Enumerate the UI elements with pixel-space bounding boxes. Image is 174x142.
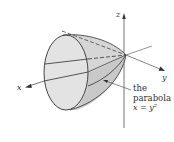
y-axis-label: y	[162, 74, 167, 82]
annotation-line-2: parabola	[133, 94, 171, 103]
paraboloid-diagram	[0, 0, 174, 142]
x-axis-arrowhead	[25, 84, 32, 88]
annotation-equation: x = y²	[133, 104, 157, 112]
y-axis-back	[126, 46, 152, 55]
y-axis-arrowhead	[159, 67, 166, 71]
z-axis-arrowhead	[122, 13, 126, 19]
z-axis-label: z	[116, 11, 120, 19]
paraboloid-figure: z x y the parabola x = y²	[0, 0, 174, 142]
x-axis-label: x	[17, 84, 22, 92]
paraboloid-open-face	[44, 35, 88, 110]
y-axis-front	[126, 55, 160, 69]
annotation-line-1: the	[133, 84, 147, 93]
